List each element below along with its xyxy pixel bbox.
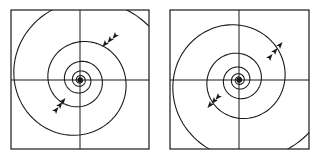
direction-arrow-icon bbox=[266, 52, 274, 61]
phase-portrait-left bbox=[11, 1, 175, 160]
phase-portrait-right bbox=[170, 0, 319, 159]
phase-portrait-figure bbox=[0, 0, 319, 160]
phase-portraits bbox=[0, 0, 319, 160]
